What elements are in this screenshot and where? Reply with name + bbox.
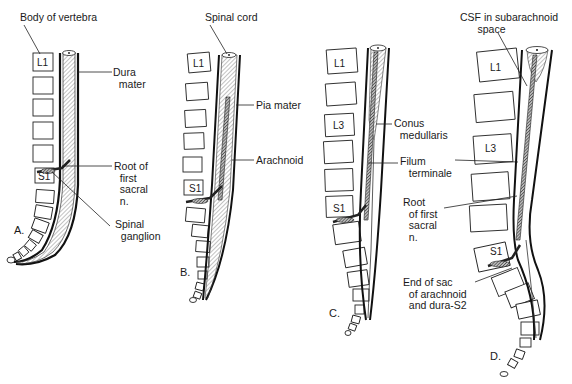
- label-conus-medullaris: Conus medullaris: [394, 118, 448, 141]
- panel-letter-a: A.: [14, 224, 24, 236]
- panel-letter-d: D.: [490, 350, 501, 362]
- diagram-canvas: L1 S1: [0, 0, 572, 384]
- panel-b: L1 S1: [183, 25, 254, 303]
- vertebra-label-l3-c: L3: [333, 120, 345, 131]
- vertebra-label-l3-d: L3: [485, 143, 497, 154]
- vertebra-label-s1-c: S1: [333, 203, 346, 214]
- vertebra-label-l1-d: L1: [490, 62, 502, 73]
- panel-d: L1 L3 S1: [444, 33, 552, 377]
- vertebra-label-s1-d: S1: [490, 246, 503, 257]
- label-root-first-sacral-d: Root of first sacral n.: [403, 197, 437, 243]
- label-filum-terminale: Filum terminale: [400, 156, 452, 179]
- label-csf-subarachnoid-space: CSF in subarachnoid space: [460, 12, 558, 35]
- vertebra-label-l1-b: L1: [193, 58, 205, 69]
- panel-letter-c: C.: [329, 307, 340, 319]
- spinal-cord-development-diagram: L1 S1: [0, 0, 572, 384]
- vertebra-label-s1-b: S1: [189, 183, 202, 194]
- label-spinal-ganglion: Spinal ganglion: [115, 219, 161, 242]
- panel-letter-b: B.: [180, 266, 190, 278]
- panel-c: L1 L3 S1: [323, 45, 398, 336]
- vertebra-label-l1-c: L1: [334, 58, 346, 69]
- label-root-first-sacral-a: Root of first sacral n.: [114, 161, 148, 207]
- label-body-of-vertebra: Body of vertebra: [20, 12, 97, 24]
- label-spinal-cord: Spinal cord: [205, 12, 258, 24]
- vertebra-label-s1: S1: [38, 171, 51, 182]
- label-end-of-sac: End of sac of arachnoid and dura-S2: [403, 277, 467, 312]
- label-pia-mater: Pia mater: [256, 100, 301, 112]
- label-dura-mater: Dura mater: [113, 67, 146, 90]
- vertebra-label-l1: L1: [37, 57, 49, 68]
- label-arachnoid: Arachnoid: [256, 155, 303, 167]
